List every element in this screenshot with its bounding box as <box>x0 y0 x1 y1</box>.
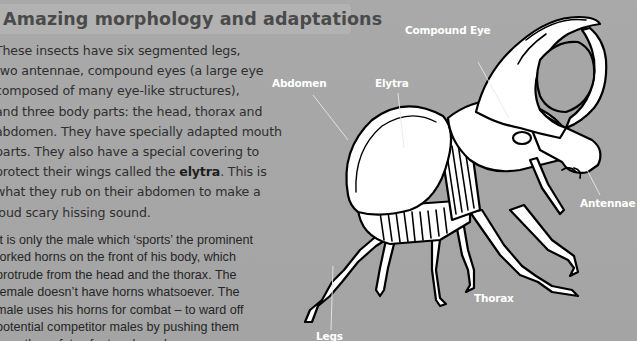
label-antennae: Antennae <box>580 197 635 209</box>
legs-pointer <box>331 266 333 330</box>
label-legs: Legs <box>316 330 343 341</box>
label-compound-eye: Compound Eye <box>405 24 490 36</box>
beetle-diagram <box>0 0 637 341</box>
compound-eye-shape <box>513 132 531 144</box>
label-elytra: Elytra <box>375 77 409 89</box>
beetle-illustration <box>305 17 606 322</box>
antennae-pointer <box>586 168 600 195</box>
label-abdomen: Abdomen <box>272 77 327 89</box>
abdomen-pointer <box>313 95 348 140</box>
label-thorax: Thorax <box>474 292 514 304</box>
